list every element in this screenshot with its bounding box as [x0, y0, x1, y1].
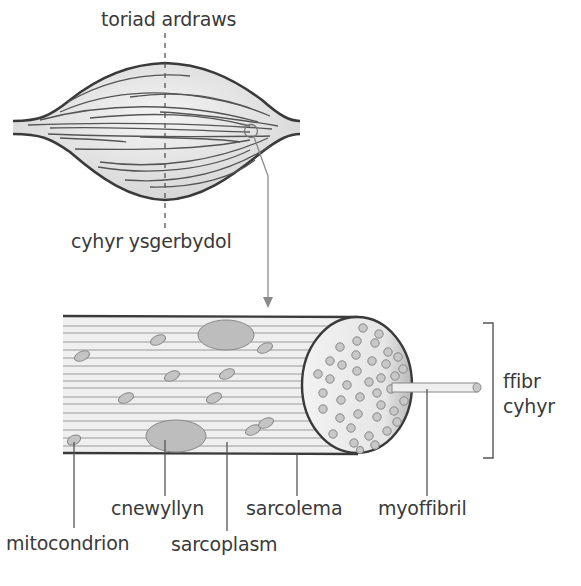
- whole-muscle: [13, 33, 300, 230]
- muscle-fibre: [63, 316, 481, 454]
- label-myofibril: myoffibril: [378, 497, 466, 519]
- sarcolemma-bottom: [63, 453, 358, 454]
- label-mitochondrion: mitocondrion: [6, 532, 129, 554]
- label-nucleus: cnewyllyn: [111, 497, 204, 519]
- sarcolemma-top: [63, 316, 358, 317]
- label-sarcoplasm: sarcoplasm: [171, 533, 277, 555]
- label-cross-section: toriad ardraws: [101, 8, 236, 30]
- fibre-bracket: [483, 323, 493, 458]
- label-skeletal-muscle: cyhyr ysgerbydol: [71, 230, 232, 252]
- label-muscle-fibre-2: cyhyr: [503, 395, 555, 417]
- protruding-myofibril: [392, 383, 477, 392]
- myofibril-tip: [473, 383, 481, 392]
- label-sarcolemma: sarcolema: [246, 497, 342, 519]
- nucleus: [198, 320, 254, 350]
- nucleus: [146, 420, 206, 452]
- label-muscle-fibre-1: ffibr: [503, 370, 541, 392]
- zoom-arrow: [254, 137, 273, 308]
